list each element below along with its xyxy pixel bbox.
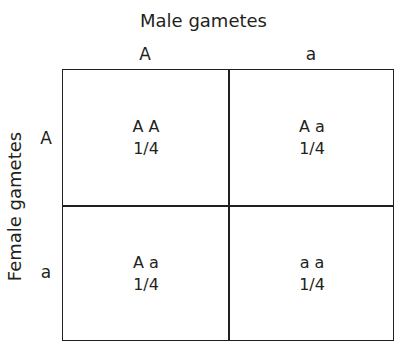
probability: 1/4 [133,138,159,160]
row-label-A: A [36,128,56,148]
row-label-a: a [36,262,56,282]
probability: 1/4 [299,274,325,296]
male-gametes-title: Male gametes [0,10,407,31]
cell-Aa-top: A a 1/4 [229,70,395,206]
probability: 1/4 [133,274,159,296]
female-gametes-title: Female gametes [4,117,25,297]
cell-Aa-bottom: A a 1/4 [63,206,229,342]
genotype: A A [133,116,160,138]
cell-AA: A A 1/4 [63,70,229,206]
column-label-a: a [291,44,331,64]
punnett-grid: A A 1/4 A a 1/4 A a 1/4 a a 1/4 [62,69,394,341]
probability: 1/4 [299,138,325,160]
column-label-A: A [125,44,165,64]
genotype: A a [133,252,159,274]
genotype: a a [300,252,325,274]
genotype: A a [299,116,325,138]
cell-aa: a a 1/4 [229,206,395,342]
